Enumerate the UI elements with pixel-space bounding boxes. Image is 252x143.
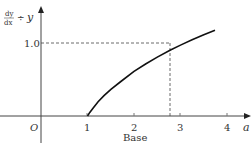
y-axis-arrow-icon [38,6,44,13]
ylabel-operator: ÷ [17,13,25,23]
x-axis-var: a [243,121,250,134]
ln-base-diagram: dy dx ÷ y 1.0 O 1 2 3 4 a Base [0,0,252,143]
x-tick-label-1: 1 [84,122,90,133]
ylabel-denominator: dx [4,19,12,27]
x-axis-title: Base [123,132,147,143]
y-tick-label: 1.0 [24,38,40,49]
ylabel-var: y [26,11,34,24]
x-axis-arrow-icon [244,113,251,119]
ylabel-numerator: dy [5,10,13,18]
x-tick-label-4: 4 [224,122,230,133]
x-tick-label-3: 3 [177,122,183,133]
origin-label: O [30,122,38,133]
